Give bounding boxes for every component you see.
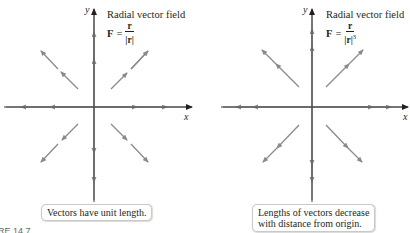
panel-unit-length: y x Radial vector field F = r |r| Vector…: [0, 0, 205, 233]
note-line: Vectors have unit length.: [47, 207, 146, 218]
formula-lhs: F: [107, 28, 113, 39]
formula-fraction: r |r|: [125, 22, 133, 45]
formula-denominator: |r|3: [344, 32, 356, 45]
formula-equals: =: [335, 28, 341, 39]
panel-decreasing-length: y x Radial vector field F = r |r|3 Lengt…: [205, 0, 410, 233]
formula: F = r |r|: [107, 22, 134, 45]
note-box: Lengths of vectors decrease with distanc…: [252, 204, 375, 232]
note-line: with distance from origin.: [258, 218, 369, 229]
vector-field-plot-unit: [0, 0, 205, 233]
formula-denominator: |r|: [125, 32, 133, 45]
figure-label: RE 14.7: [0, 226, 31, 233]
vector-field-plot-decreasing: [205, 0, 410, 233]
formula-lhs: F: [326, 28, 332, 39]
x-axis-label: x: [403, 111, 407, 122]
note-line: Lengths of vectors decrease: [258, 207, 369, 218]
y-axis-label: y: [85, 4, 89, 15]
panel-title: Radial vector field: [107, 9, 185, 20]
note-box: Vectors have unit length.: [41, 204, 152, 221]
x-axis-label: x: [184, 111, 188, 122]
formula-numerator: r: [125, 22, 133, 32]
panel-title: Radial vector field: [326, 9, 404, 20]
formula-numerator: r: [346, 22, 354, 32]
formula-fraction: r |r|3: [344, 22, 356, 45]
formula: F = r |r|3: [326, 22, 356, 45]
vector-arrows: [236, 29, 391, 182]
y-axis-label: y: [303, 4, 307, 15]
formula-equals: =: [116, 28, 122, 39]
